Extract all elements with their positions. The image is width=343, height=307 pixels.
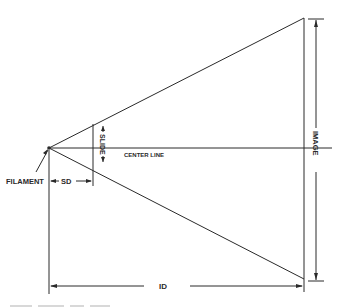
sd-arrow-left <box>50 179 56 183</box>
lower-ray <box>49 148 304 279</box>
image-label: IMAGE <box>311 131 320 156</box>
projection-diagram: FILAMENT CENTER LINE SD ID SLIDE IMAGE <box>0 0 343 307</box>
slide-arrow-bottom <box>101 157 105 162</box>
id-arrow-left <box>50 284 57 288</box>
id-label: ID <box>159 282 167 291</box>
id-arrow-right <box>296 284 303 288</box>
slide-arrow-top <box>101 126 105 131</box>
image-arrow-bottom <box>314 273 318 280</box>
filament-label: FILAMENT <box>6 177 44 186</box>
center-line-label: CENTER LINE <box>124 152 164 158</box>
sd-label: SD <box>61 177 72 186</box>
sd-arrow-right <box>86 179 92 183</box>
upper-ray <box>49 18 304 148</box>
image-arrow-top <box>314 20 318 27</box>
figure-caption-faint <box>10 296 180 304</box>
slide-label: SLIDE <box>99 134 106 155</box>
